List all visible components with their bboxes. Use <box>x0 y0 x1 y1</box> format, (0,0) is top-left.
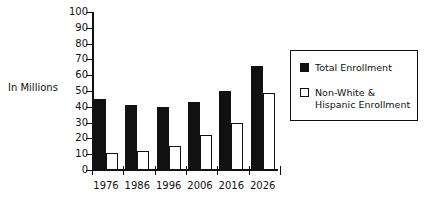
legend-swatch-hollow-icon <box>300 88 309 97</box>
bar-group <box>94 12 125 170</box>
bar-non-white-hispanic <box>200 135 212 170</box>
y-tick-mark <box>86 154 94 155</box>
chart-legend: Total Enrollment Non-White & Hispanic En… <box>290 50 418 121</box>
y-tick-mark <box>86 75 94 76</box>
x-tick-label: 2026 <box>247 180 279 191</box>
bar-total-enrollment <box>125 105 137 170</box>
bar-total-enrollment <box>157 107 169 170</box>
bar-total-enrollment <box>94 99 106 170</box>
y-tick-mark <box>86 123 94 124</box>
x-tick-mark <box>155 166 156 175</box>
y-tick-mark <box>86 28 94 29</box>
bar-non-white-hispanic <box>231 123 243 170</box>
y-tick-mark <box>86 12 94 13</box>
x-axis-tick-labels: 197619861996200620162026 <box>92 180 282 196</box>
bar-group <box>219 12 250 170</box>
x-tick-mark <box>123 166 124 175</box>
y-tick-mark <box>86 91 94 92</box>
legend-label: Non-White & Hispanic Enrollment <box>315 87 415 111</box>
x-tick-mark <box>186 166 187 175</box>
y-tick-mark <box>86 107 94 108</box>
bar-group <box>188 12 219 170</box>
y-tick-mark <box>86 59 94 60</box>
bar-non-white-hispanic <box>169 146 181 170</box>
bar-group <box>251 12 282 170</box>
bar-total-enrollment <box>251 66 263 170</box>
bar-chart: In Millions 1009080706050403020100 19761… <box>0 0 427 206</box>
x-tick-label: 1996 <box>153 180 185 191</box>
x-tick-mark <box>217 166 218 175</box>
x-tick-mark <box>92 166 93 175</box>
legend-entry-total-enrollment: Total Enrollment <box>300 62 415 74</box>
bar-non-white-hispanic <box>263 93 275 170</box>
x-tick-label: 1986 <box>121 180 153 191</box>
bar-total-enrollment <box>219 91 231 170</box>
bar-group <box>157 12 188 170</box>
legend-label: Total Enrollment <box>315 62 415 74</box>
legend-swatch-filled-icon <box>300 63 309 72</box>
x-tick-mark <box>280 166 281 175</box>
bar-total-enrollment <box>188 102 200 170</box>
y-tick-mark <box>86 44 94 45</box>
x-tick-label: 2016 <box>215 180 247 191</box>
bar-non-white-hispanic <box>137 151 149 170</box>
legend-entry-non-white-hispanic-enrollment: Non-White & Hispanic Enrollment <box>300 87 415 111</box>
bar-non-white-hispanic <box>106 153 118 170</box>
y-axis-tick-labels: 1009080706050403020100 <box>58 0 88 206</box>
plot-area <box>92 12 280 170</box>
x-tick-label: 2006 <box>184 180 216 191</box>
x-tick-mark <box>249 166 250 175</box>
bar-group <box>125 12 156 170</box>
y-tick-mark <box>86 138 94 139</box>
x-tick-label: 1976 <box>90 180 122 191</box>
y-axis-title: In Millions <box>8 82 58 93</box>
